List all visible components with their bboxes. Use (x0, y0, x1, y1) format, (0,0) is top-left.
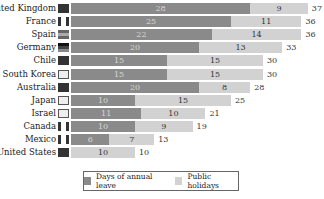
public-holidays-bar: 15 (167, 55, 263, 66)
bar-row: United Kingdom28937 (0, 3, 324, 14)
total-label: 36 (305, 16, 315, 27)
public-holidays-bar: 15 (167, 69, 263, 80)
legend: Days of annual leave Public holidays (83, 171, 239, 191)
public-holidays-swatch (175, 177, 182, 185)
annual-leave-bar: 11 (71, 108, 141, 119)
total-label: 10 (139, 147, 149, 158)
annual-leave-swatch (84, 177, 91, 185)
country-label: Japan (32, 95, 56, 106)
total-label: 25 (235, 95, 245, 106)
annual-leave-bar: 25 (71, 16, 231, 27)
israel-flag-icon (58, 109, 69, 118)
public-holidays-bar: 9 (135, 121, 193, 132)
country-label: United Kingdom (0, 3, 56, 14)
bar-row: Mexico6713 (0, 134, 324, 145)
bar-row: United States1010 (0, 147, 324, 158)
annual-leave-bar: 6 (71, 134, 109, 145)
bar-row: Canada10919 (0, 121, 324, 132)
public-holidays-bar: 7 (109, 134, 154, 145)
chile-flag-icon (58, 56, 69, 65)
public-holidays-bar: 10 (141, 108, 205, 119)
country-label: United States (0, 147, 56, 158)
country-label: Mexico (25, 134, 56, 145)
public-holidays-bar: 14 (212, 29, 302, 40)
total-label: 13 (158, 134, 168, 145)
public-holidays-bar: 15 (135, 95, 231, 106)
germany-flag-icon (58, 43, 69, 52)
stacked-bar-chart: United Kingdom28937France251136Spain2214… (0, 0, 324, 160)
country-label: France (26, 16, 56, 27)
total-label: 19 (197, 121, 207, 132)
public-holidays-bar: 9 (250, 3, 308, 14)
annual-leave-bar: 15 (71, 55, 167, 66)
country-label: Spain (31, 29, 56, 40)
legend-item-public-holidays: Public holidays (175, 172, 238, 190)
country-label: South Korea (3, 69, 56, 80)
legend-label: Public holidays (187, 172, 238, 190)
total-label: 33 (286, 42, 296, 53)
bar-row: Australia20828 (0, 82, 324, 93)
bar-row: Chile151530 (0, 55, 324, 66)
country-label: Germany (17, 42, 56, 53)
bar-row: South Korea151530 (0, 69, 324, 80)
bar-row: Spain221436 (0, 29, 324, 40)
public-holidays-bar: 10 (71, 147, 135, 158)
country-label: Israel (31, 108, 56, 119)
total-label: 30 (267, 69, 277, 80)
usa-flag-icon (58, 148, 69, 157)
legend-item-annual-leave: Days of annual leave (84, 172, 165, 190)
annual-leave-bar: 15 (71, 69, 167, 80)
france-flag-icon (58, 17, 69, 26)
annual-leave-bar: 10 (71, 121, 135, 132)
public-holidays-bar: 11 (231, 16, 301, 27)
south-korea-flag-icon (58, 70, 69, 79)
total-label: 21 (209, 108, 219, 119)
annual-leave-bar: 20 (71, 42, 199, 53)
total-label: 36 (305, 29, 315, 40)
country-label: Chile (34, 55, 56, 66)
spain-flag-icon (58, 30, 69, 39)
bar-row: Israel111021 (0, 108, 324, 119)
japan-flag-icon (58, 96, 69, 105)
annual-leave-bar: 28 (71, 3, 250, 14)
total-label: 28 (254, 82, 264, 93)
australia-flag-icon (58, 83, 69, 92)
public-holidays-bar: 8 (199, 82, 250, 93)
total-label: 30 (267, 55, 277, 66)
legend-label: Days of annual leave (96, 172, 165, 190)
canada-flag-icon (58, 122, 69, 131)
uk-flag-icon (58, 4, 69, 13)
mexico-flag-icon (58, 135, 69, 144)
annual-leave-bar: 22 (71, 29, 212, 40)
bar-row: Germany201333 (0, 42, 324, 53)
country-label: Australia (17, 82, 56, 93)
public-holidays-bar: 13 (199, 42, 282, 53)
annual-leave-bar: 20 (71, 82, 199, 93)
bar-row: France251136 (0, 16, 324, 27)
total-label: 37 (312, 3, 322, 14)
annual-leave-bar: 10 (71, 95, 135, 106)
bar-row: Japan101525 (0, 95, 324, 106)
country-label: Canada (23, 121, 56, 132)
